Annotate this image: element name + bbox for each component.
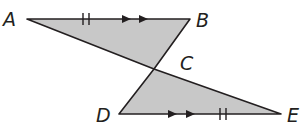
triangle-abc: [27, 19, 190, 69]
label-e: E: [287, 104, 299, 124]
label-b: B: [196, 9, 209, 31]
label-d: D: [96, 104, 111, 124]
label-c: C: [180, 52, 194, 74]
geometry-diagram: A B C D E: [0, 0, 305, 124]
triangle-cde: [119, 69, 281, 114]
label-a: A: [1, 8, 16, 30]
